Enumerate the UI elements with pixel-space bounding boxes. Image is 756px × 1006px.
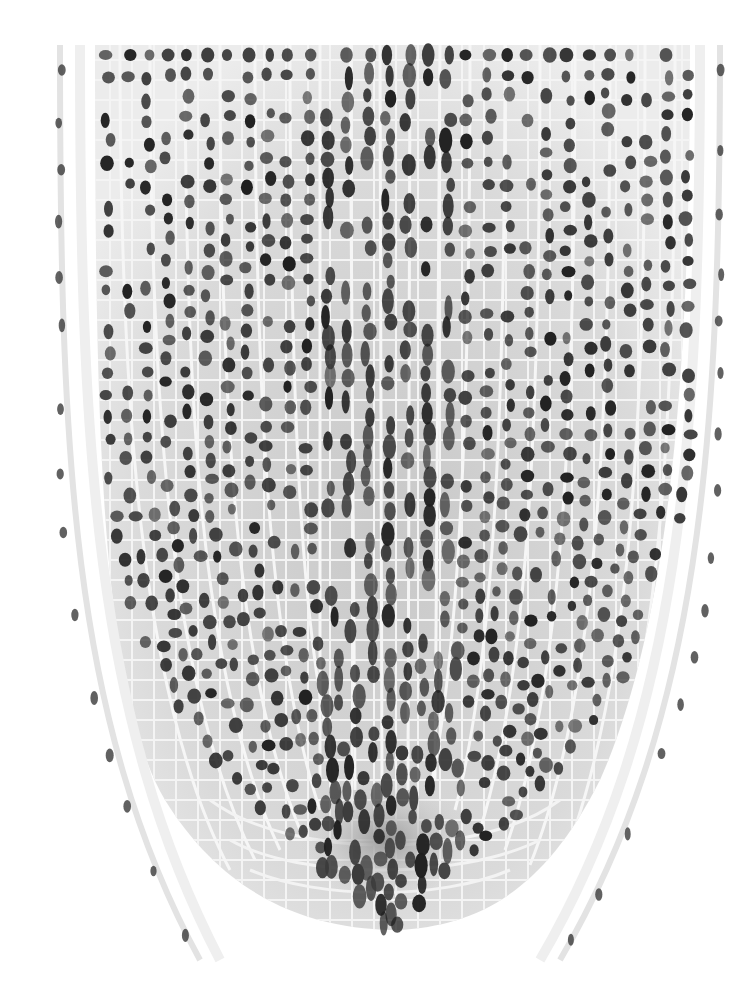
nucleus [485, 629, 497, 645]
nucleus [468, 751, 482, 762]
nucleus [124, 303, 135, 319]
nucleus [404, 193, 416, 214]
nucleus [440, 492, 450, 517]
nucleus [123, 800, 131, 813]
nucleus [300, 672, 308, 684]
nucleus [421, 216, 433, 232]
nucleus [658, 483, 672, 496]
nucleus [271, 691, 284, 706]
nucleus [641, 487, 650, 502]
nucleus [249, 545, 258, 558]
nucleus [374, 851, 388, 866]
nucleus [584, 214, 592, 230]
nucleus [504, 87, 515, 102]
nucleus [423, 422, 436, 445]
nucleus [337, 742, 350, 757]
nucleus [263, 358, 274, 373]
nucleus [161, 132, 171, 146]
nucleus [260, 253, 271, 266]
nucleus [280, 193, 291, 206]
nucleus [684, 409, 692, 423]
nucleus [620, 520, 628, 534]
nucleus [620, 180, 630, 192]
nucleus [167, 521, 180, 534]
nucleus [167, 609, 181, 620]
nucleus [364, 553, 373, 569]
nucleus [160, 152, 171, 165]
nucleus [341, 280, 350, 304]
nucleus [325, 586, 338, 606]
nucleus [521, 490, 533, 500]
nucleus [179, 111, 192, 122]
nucleus [475, 608, 483, 623]
nucleus [459, 225, 473, 238]
nucleus [226, 214, 234, 225]
nucleus [281, 70, 293, 81]
nucleus [482, 131, 493, 145]
nucleus [498, 541, 508, 554]
nucleus [124, 488, 137, 504]
nucleus [662, 363, 676, 377]
nucleus [187, 688, 201, 703]
nucleus [406, 405, 414, 425]
nucleus [364, 126, 376, 146]
nucleus [164, 414, 177, 428]
nucleus [222, 90, 235, 102]
nucleus [497, 562, 508, 575]
nucleus [163, 335, 176, 345]
nucleus [421, 383, 431, 403]
nucleus [203, 734, 213, 748]
nucleus [102, 284, 111, 295]
nucleus [368, 727, 379, 741]
nucleus [102, 367, 113, 379]
nucleus [373, 829, 385, 844]
nucleus [530, 567, 542, 582]
nucleus [603, 164, 616, 177]
nucleus [564, 225, 577, 236]
nucleus [222, 131, 234, 145]
nucleus [560, 246, 571, 257]
nucleus [457, 780, 465, 797]
nucleus [227, 403, 235, 416]
nucleus [441, 474, 454, 490]
nucleus [205, 310, 214, 325]
nucleus [602, 585, 613, 598]
nucleus [543, 250, 556, 262]
nucleus [458, 310, 471, 324]
nucleus [601, 68, 614, 81]
nucleus [717, 367, 723, 379]
nucleus [684, 430, 698, 440]
nucleus [682, 369, 695, 383]
nucleus [416, 833, 430, 855]
nucleus [484, 328, 493, 341]
nucleus [682, 108, 693, 122]
nucleus [537, 507, 548, 520]
nucleus [458, 599, 468, 610]
nucleus [262, 740, 276, 752]
nucleus [161, 479, 174, 492]
nucleus [385, 838, 395, 859]
nucleus [483, 669, 494, 683]
nucleus [225, 421, 237, 435]
nucleus [230, 657, 238, 671]
nucleus [661, 260, 671, 273]
nucleus [480, 471, 490, 483]
nucleus [480, 511, 491, 523]
nucleus [182, 404, 191, 420]
nucleus [159, 377, 171, 387]
nucleus [455, 830, 465, 850]
nucleus [554, 762, 563, 775]
nucleus [451, 641, 465, 660]
nucleus [191, 648, 202, 660]
nucleus [259, 193, 272, 204]
nucleus [279, 737, 293, 751]
nucleus [504, 438, 516, 449]
nucleus [365, 48, 376, 63]
nucleus [323, 431, 333, 451]
nucleus [243, 391, 254, 401]
nucleus [299, 690, 313, 705]
nucleus [260, 152, 273, 164]
nucleus [283, 175, 295, 189]
nucleus [680, 322, 693, 338]
nucleus [439, 748, 453, 771]
